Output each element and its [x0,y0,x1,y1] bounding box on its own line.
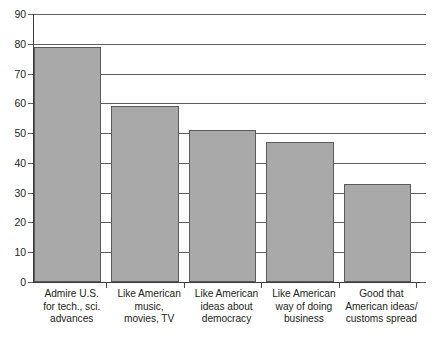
y-axis-label-50: 50 [0,128,26,139]
x-axis-label-line-3: customs spread [337,313,426,326]
x-axis-labels: Admire U.S.for tech., sci.advancesLike A… [33,288,420,340]
x-axis-label: Like Americanway of doingbusiness [259,288,348,326]
y-tick-right-70 [420,74,426,75]
y-tick-right-90 [420,14,426,15]
x-axis-label-line-1: Like American [104,288,193,301]
y-tick-right-80 [420,44,426,45]
x-axis-label: Like Americanmusic,movies, TV [104,288,193,326]
x-axis-label-line-1: Like American [182,288,271,301]
y-tick-0 [28,282,33,283]
y-tick-right-10 [420,252,426,253]
x-axis-label-line-3: democracy [182,313,271,326]
gridline-0 [33,282,420,283]
x-axis-label-line-2: music, [104,301,193,314]
bar-chart: 9080706050403020100 Admire U.S.for tech.… [0,0,433,349]
bar [189,130,256,282]
x-axis-label-line-2: American ideas/ [337,301,426,314]
x-axis-label: Admire U.S.for tech., sci.advances [27,288,116,326]
y-tick-right-30 [420,193,426,194]
x-axis-label-line-3: advances [27,313,116,326]
x-axis-label: Like Americanideas aboutdemocracy [182,288,271,326]
bars-group [33,14,420,282]
x-axis-label-line-1: Admire U.S. [27,288,116,301]
y-tick-right-20 [420,222,426,223]
x-axis-label-line-2: way of doing [259,301,348,314]
y-tick-right-50 [420,133,426,134]
y-axis-label-30: 30 [0,188,26,199]
x-axis-label-line-1: Good that [337,288,426,301]
x-axis-label-line-2: ideas about [182,301,271,314]
y-axis-label-70: 70 [0,69,26,80]
x-axis-label-line-3: movies, TV [104,313,193,326]
x-axis-label-line-1: Like American [259,288,348,301]
y-axis-label-40: 40 [0,158,26,169]
y-tick-right-40 [420,163,426,164]
y-axis-label-90: 90 [0,9,26,20]
x-axis-label: Good thatAmerican ideas/customs spread [337,288,426,326]
y-axis-label-80: 80 [0,39,26,50]
bar [34,47,101,282]
y-axis-label-20: 20 [0,217,26,228]
y-tick-right-0 [420,282,426,283]
bar [266,142,333,282]
y-tick-right-60 [420,103,426,104]
y-axis-label-10: 10 [0,247,26,258]
bar [111,106,178,282]
x-axis-label-line-3: business [259,313,348,326]
x-axis-label-line-2: for tech., sci. [27,301,116,314]
bar [344,184,411,282]
y-axis-label-0: 0 [0,277,26,288]
y-axis-label-60: 60 [0,98,26,109]
